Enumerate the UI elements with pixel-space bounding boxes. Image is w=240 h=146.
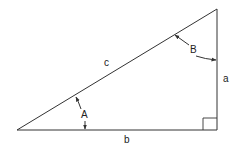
angle-b-arc-upper: [175, 35, 189, 45]
angle-b-arc-lower: [196, 56, 216, 60]
angle-a-arc-upper: [76, 97, 81, 109]
label-c: c: [104, 57, 109, 68]
label-b: b: [124, 134, 130, 145]
right-triangle-diagram: c a b A B: [0, 0, 240, 146]
hypotenuse-c: [17, 9, 217, 130]
label-angle-a: A: [81, 109, 88, 120]
right-angle-marker: [203, 118, 217, 130]
label-angle-b: B: [190, 44, 197, 55]
label-a: a: [223, 73, 229, 84]
